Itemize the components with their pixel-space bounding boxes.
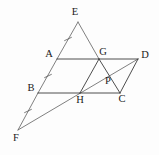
- segment-E-A: [57, 22, 78, 59]
- vertex-label-A: A: [45, 48, 53, 59]
- vertex-label-D: D: [141, 49, 149, 60]
- geometry-diagram: E A G D B H C P F: [0, 0, 159, 155]
- vertex-label-B: B: [27, 82, 34, 93]
- vertex-label-P: P: [105, 75, 111, 86]
- vertex-label-F: F: [13, 132, 19, 143]
- vertex-label-E: E: [72, 6, 78, 17]
- vertex-label-G: G: [99, 46, 107, 57]
- segment-E-G: [78, 22, 99, 59]
- vertex-label-C: C: [118, 93, 125, 104]
- geometry-canvas: E A G D B H C P F: [0, 0, 159, 155]
- vertex-label-H: H: [76, 94, 84, 105]
